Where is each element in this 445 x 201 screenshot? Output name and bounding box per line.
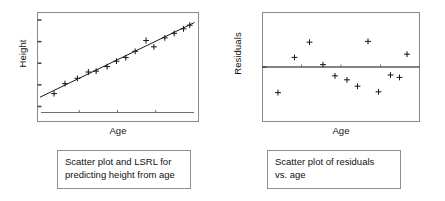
x-axis-label-age: Age: [37, 125, 199, 136]
residual-plot-area: [262, 12, 420, 122]
x-axis-label-age: Age: [262, 125, 420, 136]
residual-plot-canvas: [262, 12, 420, 122]
data-point-marker: [397, 75, 403, 81]
caption-box-scatter: Scatter plot and LSRL for predicting hei…: [57, 150, 191, 189]
panel-scatter-lsrl: Height Age Scatter plot and LSRL for pre…: [0, 0, 222, 201]
scatter-plot-canvas: [37, 12, 199, 122]
data-point-marker: [307, 39, 313, 45]
data-point-marker: [151, 44, 157, 50]
data-point-marker: [187, 22, 193, 28]
caption-line-1: Scatter plot of residuals: [275, 156, 393, 169]
data-point-marker: [376, 89, 382, 95]
data-point-marker: [344, 77, 350, 83]
figure-root: Height Age Scatter plot and LSRL for pre…: [0, 0, 445, 201]
data-point-marker: [275, 90, 281, 96]
caption-line-1: Scatter plot and LSRL for: [65, 156, 183, 169]
data-point-marker: [123, 55, 129, 61]
data-point-marker: [404, 51, 410, 57]
data-point-marker: [388, 72, 394, 78]
scatter-plot-area: [37, 12, 199, 122]
data-point-marker: [332, 73, 338, 79]
caption-line-2: vs. age: [275, 169, 393, 182]
caption-box-residual: Scatter plot of residuals vs. age: [267, 150, 401, 189]
data-point-marker: [292, 55, 298, 61]
caption-line-2: predicting height from age: [65, 169, 183, 182]
data-point-marker: [355, 83, 361, 89]
data-point-marker: [132, 48, 138, 54]
y-axis-label-height: Height: [17, 24, 28, 84]
data-point-marker: [365, 39, 371, 45]
panel-residual-plot: Residuals Age Scatter plot of residuals …: [222, 0, 444, 201]
data-point-marker: [104, 64, 110, 70]
y-axis-label-residuals: Residuals: [232, 24, 243, 84]
data-point-marker: [143, 38, 149, 44]
data-point-marker: [85, 69, 91, 75]
